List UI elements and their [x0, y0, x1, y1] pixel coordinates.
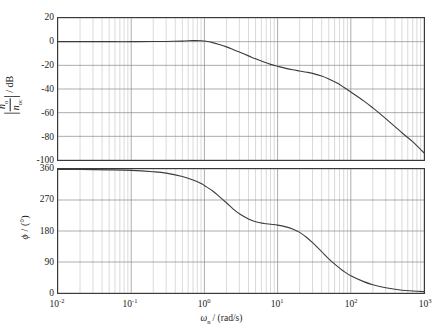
magnitude-units: / dB: [3, 76, 14, 93]
xtick-mantissa-4: 10: [345, 299, 355, 309]
phase-ytick-360: 360: [16, 163, 54, 173]
xtick-label-0: 10-2: [39, 297, 75, 309]
xtick-exponent-4: 2: [354, 297, 357, 304]
xtick-exponent-1: -1: [132, 297, 137, 304]
magnitude-ytick-m40: -40: [16, 84, 54, 94]
magnitude-ytick-m20: -20: [16, 60, 54, 70]
magnitude-ytick-20: 20: [16, 12, 54, 22]
x-axis-label: ωn/ (rad/s): [0, 313, 443, 325]
denominator-subscript: oc: [16, 99, 23, 105]
xtick-label-4: 102: [333, 297, 369, 309]
magnitude-plot-area: [57, 17, 425, 161]
xtick-exponent-2: 0: [207, 297, 210, 304]
magnitude-ytick-m60: -60: [16, 108, 54, 118]
xtick-mantissa-0: 10: [50, 299, 60, 309]
phase-svg: [58, 169, 424, 293]
phase-plot-area: [57, 168, 425, 294]
magnitude-major-gridlines: [58, 18, 424, 160]
x-axis-units: / (rad/s): [213, 313, 243, 323]
xtick-mantissa-3: 10: [271, 299, 281, 309]
phase-ytick-90: 90: [16, 257, 54, 267]
abs-bar-right: |: [2, 95, 19, 98]
magnitude-ytick-m80: -80: [16, 132, 54, 142]
xtick-label-2: 100: [186, 297, 222, 309]
xtick-label-1: 10-1: [112, 297, 148, 309]
xtick-label-5: 103: [407, 297, 443, 309]
bode-plot-figure: |nonoc|/ dB 20 0 -20 -40 -60 -80 -100 ϕ/…: [0, 0, 443, 336]
xtick-label-3: 101: [259, 297, 295, 309]
xtick-mantissa-1: 10: [123, 299, 133, 309]
xtick-mantissa-2: 10: [198, 299, 208, 309]
xtick-exponent-5: 3: [428, 297, 431, 304]
numerator-subscript: o: [2, 101, 9, 104]
phase-major-gridlines: [58, 169, 424, 293]
xtick-mantissa-5: 10: [419, 299, 429, 309]
phase-ytick-180: 180: [16, 226, 54, 236]
x-axis-subscript: n: [207, 318, 210, 325]
xtick-exponent-3: 1: [280, 297, 283, 304]
phase-response-curve: [58, 169, 424, 291]
magnitude-svg: [58, 18, 424, 160]
magnitude-ytick-0: 0: [16, 36, 54, 46]
xtick-exponent-0: -2: [59, 297, 64, 304]
phase-ytick-270: 270: [16, 194, 54, 204]
